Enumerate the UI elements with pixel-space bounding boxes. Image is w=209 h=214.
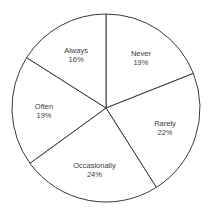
pie-label-percent-always: 16% [69, 55, 84, 64]
pie-label-name-always: Always [64, 46, 88, 55]
pie-label-percent-never: 19% [133, 58, 148, 67]
pie-label-name-occasionally: Occasionally [73, 161, 116, 170]
pie-label-name-rarely: Rarely [154, 119, 176, 128]
pie-label-name-never: Never [131, 49, 152, 58]
pie-chart: Never19%Rarely22%Occasionally24%Often19%… [0, 0, 209, 214]
pie-label-name-often: Often [35, 102, 53, 111]
pie-label-percent-often: 19% [36, 111, 51, 120]
pie-label-percent-occasionally: 24% [87, 170, 102, 179]
pie-label-percent-rarely: 22% [157, 128, 172, 137]
